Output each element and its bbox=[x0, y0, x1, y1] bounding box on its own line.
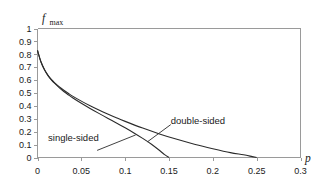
y-axis-label-base: f bbox=[42, 12, 47, 25]
y-axis-tick-labels: 00.10.20.30.40.50.60.70.80.91 bbox=[19, 24, 32, 163]
y-tick-label: 0.3 bbox=[19, 114, 32, 124]
annotation-labels-group: single-sideddouble-sided bbox=[48, 115, 225, 143]
x-axis-tick-labels: 00.050.10.150.20.250.3 bbox=[35, 166, 307, 176]
x-tick-label: 0.05 bbox=[73, 166, 91, 176]
y-tick-label: 0.9 bbox=[19, 37, 32, 47]
y-tick-label: 1 bbox=[26, 24, 31, 34]
x-tick-label: 0.2 bbox=[207, 166, 220, 176]
x-tick-label: 0.3 bbox=[294, 166, 307, 176]
y-tick-label: 0.8 bbox=[19, 50, 32, 60]
x-tick-label: 0.15 bbox=[160, 166, 178, 176]
annotation-leaders-group bbox=[97, 125, 171, 151]
y-tick-label: 0.6 bbox=[19, 75, 32, 85]
annotation-label-double-sided: double-sided bbox=[171, 115, 225, 126]
y-tick-label: 0.2 bbox=[19, 127, 32, 137]
x-axis-label: p bbox=[304, 152, 311, 165]
chart-figure: 00.10.20.30.40.50.60.70.80.91 00.050.10.… bbox=[0, 0, 322, 195]
chart-canvas: 00.10.20.30.40.50.60.70.80.91 00.050.10.… bbox=[0, 0, 322, 195]
y-tick-label: 0.5 bbox=[19, 88, 32, 98]
y-tick-label: 0 bbox=[26, 153, 31, 163]
x-tick-label: 0.1 bbox=[119, 166, 132, 176]
y-axis-label: f max bbox=[42, 12, 63, 27]
annotation-label-single-sided: single-sided bbox=[48, 132, 99, 143]
leader-line-double-sided bbox=[148, 125, 171, 142]
x-tick-label: 0 bbox=[35, 166, 40, 176]
y-tick-label: 0.4 bbox=[19, 101, 32, 111]
y-tick-label: 0.7 bbox=[19, 62, 32, 72]
leader-line-single-sided bbox=[97, 135, 136, 150]
y-axis-label-subscript: max bbox=[50, 18, 64, 27]
x-tick-label: 0.25 bbox=[248, 166, 266, 176]
y-tick-label: 0.1 bbox=[19, 140, 32, 150]
